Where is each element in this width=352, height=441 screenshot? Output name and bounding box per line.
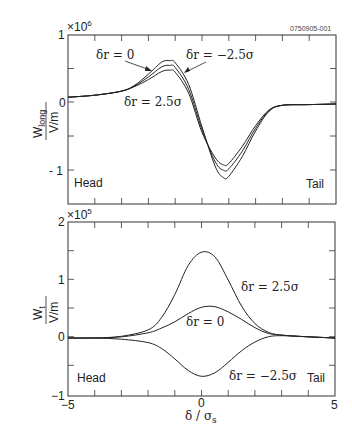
svg-text:V/m: V/m <box>47 302 61 323</box>
figure-id: 0750905-001 <box>290 25 331 32</box>
bottom-y-ticks <box>68 251 335 366</box>
xtick-minus5: −5 <box>61 398 75 412</box>
svg-text:Wlong: Wlong <box>31 110 47 138</box>
bottom-label-drneg: δr = −2.5σ <box>229 369 297 383</box>
bottom-multiplier: ×105 <box>67 207 92 222</box>
curve-r2.5 <box>68 70 336 166</box>
svg-text:Wt: Wt <box>31 306 47 320</box>
top-y-ticks <box>68 69 336 171</box>
top-label-drneg: δr = −2.5σ <box>186 48 254 62</box>
bottom-ytick-0: 0 <box>58 330 65 344</box>
curve-r-2.5 <box>68 60 336 179</box>
svg-text:V/m: V/m <box>47 112 61 133</box>
top-tail-label: Tail <box>306 177 324 191</box>
top-ytick-minus1: - 1 <box>49 164 63 178</box>
top-label-dr0: δr = 0 <box>96 48 134 62</box>
top-head-label: Head <box>74 176 103 190</box>
top-ytick-1: 1 <box>58 28 65 42</box>
top-ylabel: Wlong V/m <box>31 102 61 140</box>
bottom-head-label: Head <box>77 371 106 385</box>
bottom-label-dr0: δr = 0 <box>186 315 224 329</box>
bottom-ytick-1: 1 <box>58 273 65 287</box>
bottom-curves <box>68 252 335 377</box>
top-multiplier: ×106 <box>67 19 92 34</box>
bottom-tail-label: Tail <box>307 371 325 385</box>
top-label-drpos: δr = 2.5σ <box>124 95 182 109</box>
top-panel: 1 0 - 1 ×106 0750905-001 Head Tail Wlong… <box>31 19 336 204</box>
bottom-ylabel: Wt V/m <box>31 296 61 324</box>
xtick-0: 0 <box>198 396 205 410</box>
bottom-label-drpos: δr = 2.5σ <box>241 280 299 294</box>
top-ytick-0: 0 <box>59 96 66 110</box>
x-axis-label: δ / σs <box>185 409 217 425</box>
top-curves <box>68 60 336 179</box>
bottom-panel: 2 1 0 −1 ×105 Head Tail Wt V/m δr = 2.5σ… <box>31 207 338 425</box>
bottom-ytick-2: 2 <box>58 215 65 229</box>
curve-r0 <box>68 65 336 171</box>
figure: 1 0 - 1 ×106 0750905-001 Head Tail Wlong… <box>0 0 352 441</box>
xtick-5: 5 <box>331 398 338 412</box>
